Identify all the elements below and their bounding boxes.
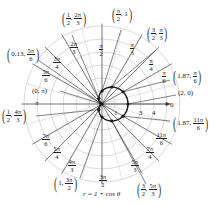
polar-grid-plot: [0, 0, 215, 205]
polar-axis-zero-label: 0: [170, 102, 174, 109]
angle-label-4pi-over-3: 4π3: [68, 158, 76, 173]
angle-label-5pi-over-4: 5π4: [53, 145, 61, 160]
pointer-line: [36, 110, 99, 116]
angle-label-2pi-over-3: 2π3: [70, 40, 78, 55]
point-label-0.13-5pi-over-6: (0.13, 5π6): [6, 47, 40, 62]
angle-label-3pi-over-4: 3π4: [53, 55, 61, 70]
angle-ray: [102, 34, 142, 104]
polar-graph-figure: π2 π3 π4 π6 2π3 3π4 5π6 π 7π6 5π4 4π3 3π…: [0, 0, 215, 205]
angle-label-pi-over-2: π2: [99, 42, 103, 57]
angle-label-pi-over-6: π6: [162, 69, 166, 84]
angle-label-7pi-over-4: 7π4: [146, 145, 154, 160]
angle-label-pi-over-4: π4: [149, 57, 153, 72]
point-label-3half-5pi-over-3: (32, 5π3): [136, 182, 162, 197]
data-point: [126, 102, 129, 105]
data-point: [110, 86, 113, 89]
pointer-line: [128, 95, 176, 104]
point-label-1-3pi-over-2: (1, 3π2): [53, 176, 78, 191]
angle-label-pi-over-3: π3: [130, 41, 134, 56]
point-label-half-4pi-over-3: (12, 4π3): [1, 108, 27, 123]
angle-label-11pi-over-6: 11π6: [156, 131, 167, 146]
angle-label-pi: π: [35, 100, 39, 107]
point-label-2-0: (2, 0): [178, 90, 193, 97]
data-point: [121, 115, 124, 118]
equation-label: r = 1 + cos θ: [83, 191, 120, 198]
data-point: [100, 115, 103, 118]
pointer-line: [112, 121, 146, 184]
data-point: [110, 119, 113, 122]
point-label-1.87-11pi-over-6: (1.87, 11π6): [172, 116, 209, 131]
point-label-half-2pi-over-3: (12, 2π3): [61, 11, 87, 26]
radial-tick-1: 1: [114, 110, 118, 117]
angle-label-5pi-over-6: 5π6: [42, 68, 50, 83]
data-point: [100, 102, 103, 105]
point-label-0-pi: (0, π): [32, 88, 47, 95]
angle-label-7pi-over-6: 7π6: [42, 132, 50, 147]
data-point: [97, 108, 100, 111]
data-point: [97, 97, 100, 100]
point-label-3half-pi-over-3: (32, π3): [146, 26, 169, 41]
data-point: [121, 90, 124, 93]
radial-tick-3: 3: [139, 110, 143, 117]
angle-label-3pi-over-2: 3π2: [99, 173, 107, 188]
data-point: [100, 89, 103, 92]
point-label-1.87-pi-over-6: (1.87, π6): [172, 69, 203, 84]
angle-label-5pi-over-3: 5π3: [131, 158, 139, 173]
point-label-pi-over-2-one: (π2, 1): [111, 7, 133, 22]
radial-tick-4: 4: [152, 110, 156, 117]
